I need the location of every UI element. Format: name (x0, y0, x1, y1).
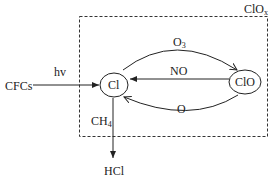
cl-label: Cl (108, 79, 119, 91)
o3-label: O3 (173, 36, 186, 52)
clox-region-label: ClOx (244, 3, 268, 19)
o-label: O (177, 103, 186, 115)
hv-label: hv (54, 66, 66, 78)
ch4-label: CH4 (91, 115, 112, 131)
chlorine-cycle-diagram (0, 0, 273, 181)
hcl-label: HCl (104, 165, 124, 177)
cfcs-label: CFCs (5, 80, 32, 92)
no-label: NO (170, 65, 187, 77)
clo-label: ClO (235, 76, 255, 88)
